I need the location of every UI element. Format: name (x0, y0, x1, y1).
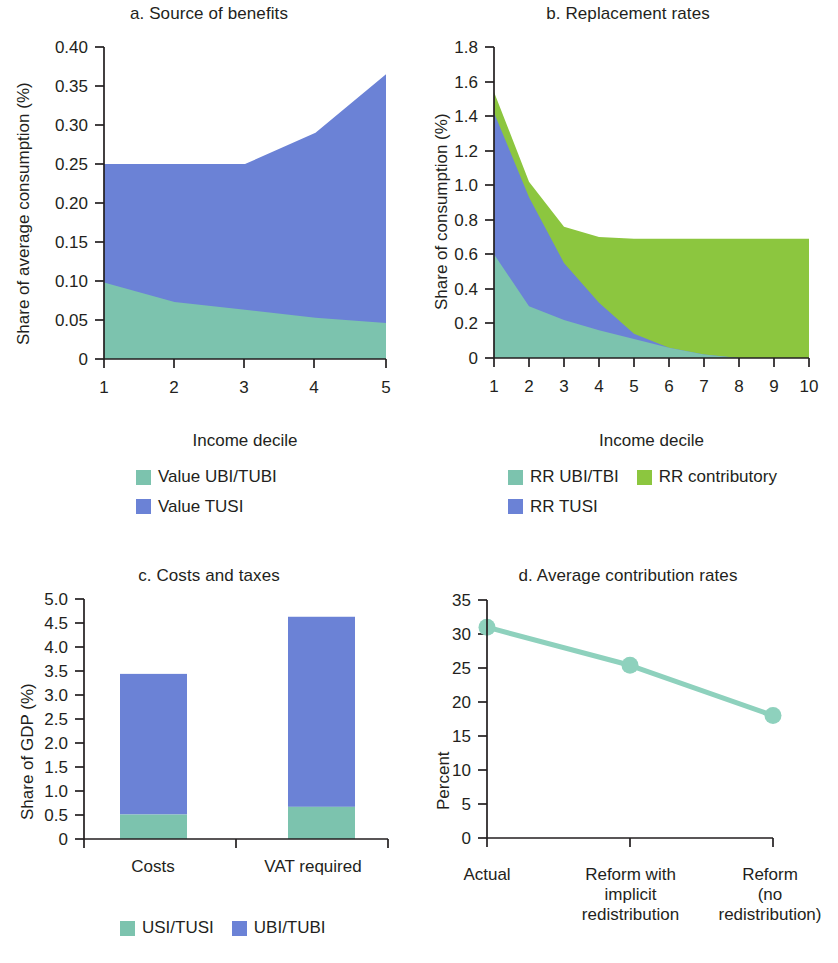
svg-text:0.5: 0.5 (44, 806, 68, 825)
panel-b-plot: 1.8 1.6 1.4 1.2 1.0 0.8 0.6 0.4 0.2 0 (418, 28, 838, 428)
svg-text:0.25: 0.25 (55, 155, 88, 174)
svg-text:35: 35 (452, 591, 471, 610)
panel-b-x-tickmarks (494, 358, 809, 367)
svg-text:0.30: 0.30 (55, 116, 88, 135)
svg-text:1.0: 1.0 (44, 782, 68, 801)
panel-d-x-tick-actual: Actual (426, 865, 548, 885)
svg-text:0: 0 (79, 350, 88, 369)
panel-c-y-ticks: 5.0 4.5 4.0 3.5 3.0 2.5 2.0 1.5 1.0 0.5 … (44, 590, 68, 849)
panel-d-title: d. Average contribution rates (418, 566, 838, 586)
panel-b-legend: RR UBI/TBI RR contributory RR TUSI (508, 465, 838, 519)
svg-text:4.0: 4.0 (44, 638, 68, 657)
panel-d-average-contribution-rates: d. Average contribution rates Percent 35… (418, 560, 838, 963)
legend-label-rr-ubi-tbi: RR UBI/TBI (530, 465, 619, 490)
panel-c-legend: USI/TUSI UBI/TUBI (120, 916, 420, 941)
panel-a-plot: 0.40 0.35 0.30 0.25 0.20 0.15 0.10 0.05 … (0, 28, 418, 428)
panel-c-y-tickmarks (75, 599, 84, 839)
svg-text:20: 20 (452, 693, 471, 712)
panel-c-x-tickmarks (84, 839, 388, 848)
panel-d-y-ticks: 35 30 25 20 15 10 5 0 (452, 591, 471, 848)
panel-c-bar-costs-usi-tusi (120, 815, 187, 839)
svg-text:10: 10 (800, 377, 819, 396)
legend-label-rr-contributory: RR contributory (659, 465, 777, 490)
panel-a-x-axis-title: Income decile (104, 431, 386, 451)
x-tick-line: implicit (558, 885, 703, 905)
panel-b-x-ticks: 1 2 3 4 5 6 7 8 9 10 (489, 377, 818, 396)
x-tick-line: redistribution) (702, 905, 838, 925)
panel-b-x-axis-title: Income decile (494, 431, 809, 451)
legend-swatch-green-icon (637, 470, 652, 485)
panel-c-bar-vat-ubi-tubi (288, 617, 355, 807)
legend-swatch-teal-icon (508, 470, 523, 485)
legend-item-rr-tusi[interactable]: RR TUSI (508, 495, 598, 520)
panel-c-x-ticks: Costs VAT required (131, 857, 361, 876)
legend-item-rr-ubi-tbi[interactable]: RR UBI/TBI (508, 465, 619, 490)
svg-text:0: 0 (462, 829, 471, 848)
x-tick-line: Reform (702, 865, 838, 885)
panel-d-x-tickmarks (487, 838, 773, 847)
svg-text:0.40: 0.40 (55, 38, 88, 57)
svg-text:0.15: 0.15 (55, 233, 88, 252)
panel-a-y-tickmarks (95, 47, 104, 359)
svg-text:7: 7 (699, 377, 708, 396)
legend-item-usi-tusi[interactable]: USI/TUSI (120, 916, 214, 941)
svg-text:0.05: 0.05 (55, 311, 88, 330)
svg-text:0.35: 0.35 (55, 77, 88, 96)
figure-root: a. Source of benefits Share of average c… (0, 0, 838, 963)
svg-text:2: 2 (169, 378, 178, 397)
panel-c-legend-row-1: USI/TUSI UBI/TUBI (120, 916, 344, 941)
svg-text:4: 4 (309, 378, 318, 397)
panel-a-x-tickmarks (104, 359, 386, 368)
panel-b-replacement-rates: b. Replacement rates Share of consumptio… (418, 0, 838, 420)
legend-item-value-ubi-tubi[interactable]: Value UBI/TUBI (136, 465, 277, 490)
svg-text:3: 3 (239, 378, 248, 397)
panel-d-x-tick-reform-implicit: Reform with implicit redistribution (558, 865, 703, 925)
panel-a-y-ticks: 0.40 0.35 0.30 0.25 0.20 0.15 0.10 0.05 … (55, 38, 88, 369)
svg-text:5: 5 (381, 378, 390, 397)
svg-text:6: 6 (664, 377, 673, 396)
panel-d-axis (487, 600, 773, 838)
legend-swatch-blue-icon (508, 499, 523, 514)
panel-a-title: a. Source of benefits (0, 4, 418, 24)
svg-text:1.0: 1.0 (454, 176, 478, 195)
svg-text:10: 10 (452, 761, 471, 780)
svg-text:1.4: 1.4 (454, 107, 478, 126)
svg-text:25: 25 (452, 659, 471, 678)
panel-d-x-tick-reform-no-redistribution: Reform (no redistribution) (702, 865, 838, 925)
svg-text:2.0: 2.0 (44, 734, 68, 753)
svg-text:0.20: 0.20 (55, 194, 88, 213)
svg-text:5.0: 5.0 (44, 590, 68, 609)
svg-text:0.2: 0.2 (454, 314, 478, 333)
svg-text:1.2: 1.2 (454, 142, 478, 161)
svg-text:4: 4 (594, 377, 603, 396)
panel-c-bar-vat-usi-tusi (288, 807, 355, 839)
svg-text:4.5: 4.5 (44, 614, 68, 633)
x-tick-line: redistribution (558, 905, 703, 925)
panel-b-y-tickmarks (485, 47, 494, 358)
panel-c-plot: 5.0 4.5 4.0 3.5 3.0 2.5 2.0 1.5 1.0 0.5 … (0, 588, 418, 918)
x-tick-line: Reform with (558, 865, 703, 885)
legend-swatch-blue-icon (136, 499, 151, 514)
panel-b-y-ticks: 1.8 1.6 1.4 1.2 1.0 0.8 0.6 0.4 0.2 0 (454, 38, 478, 368)
svg-text:8: 8 (734, 377, 743, 396)
legend-label-value-tusi: Value TUSI (158, 495, 243, 520)
svg-text:1.6: 1.6 (454, 73, 478, 92)
panel-a-legend-row-2: Value TUSI (136, 495, 416, 520)
legend-item-rr-contributory[interactable]: RR contributory (637, 465, 777, 490)
svg-text:30: 30 (452, 625, 471, 644)
legend-item-value-tusi[interactable]: Value TUSI (136, 495, 243, 520)
svg-text:1: 1 (99, 378, 108, 397)
svg-text:0.10: 0.10 (55, 272, 88, 291)
panel-d-point-reform-implicit (622, 657, 639, 674)
svg-text:0.6: 0.6 (454, 245, 478, 264)
panel-d-point-reform-no-redistribution (765, 707, 782, 724)
svg-text:0: 0 (59, 830, 68, 849)
svg-text:0: 0 (469, 349, 478, 368)
panel-b-legend-row-2: RR TUSI (508, 495, 838, 520)
svg-text:9: 9 (769, 377, 778, 396)
legend-item-ubi-tubi[interactable]: UBI/TUBI (232, 916, 326, 941)
svg-text:5: 5 (629, 377, 638, 396)
legend-swatch-blue-icon (232, 921, 247, 936)
panel-c-costs-and-taxes: c. Costs and taxes Share of GDP (%) 5.0 … (0, 560, 418, 900)
panel-b-title: b. Replacement rates (418, 4, 838, 24)
